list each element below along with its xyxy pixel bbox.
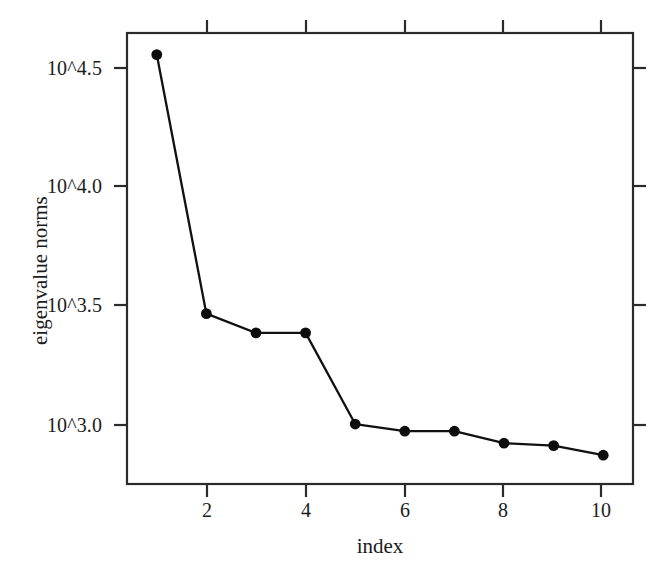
x-tick-label-8: 8 — [498, 500, 508, 520]
y-axis-ticks-left — [114, 68, 127, 425]
x-tick-label-2: 2 — [202, 500, 212, 520]
x-tick-label-6: 6 — [400, 500, 410, 520]
x-axis-title: index — [357, 534, 404, 559]
data-point — [201, 308, 212, 319]
x-tick-label-4: 4 — [301, 500, 311, 520]
eigenvalue-series-markers — [151, 49, 608, 460]
x-tick-label-10: 10 — [591, 500, 611, 520]
plot-canvas — [0, 0, 652, 569]
y-tick-label-3-5: 10^3.5 — [10, 295, 102, 315]
x-axis-ticks-top — [207, 20, 601, 33]
data-point — [350, 419, 361, 430]
y-tick-label-4-0: 10^4.0 — [10, 176, 102, 196]
data-point — [449, 426, 460, 437]
data-point — [399, 426, 410, 437]
data-point — [251, 327, 262, 338]
plot-frame — [127, 33, 633, 484]
data-point — [499, 438, 510, 449]
data-point — [598, 450, 609, 461]
y-tick-label-4-5: 10^4.5 — [10, 58, 102, 78]
x-axis-ticks-bottom — [207, 484, 601, 497]
data-point — [548, 440, 559, 451]
data-point — [151, 49, 162, 60]
y-axis-ticks-right — [633, 68, 646, 425]
scree-plot-figure: 10^4.5 10^4.0 10^3.5 10^3.0 2 4 6 8 10 e… — [0, 0, 652, 569]
y-axis-title: eigenvalue norms — [28, 196, 53, 345]
data-point — [300, 327, 311, 338]
y-tick-label-3-0: 10^3.0 — [10, 415, 102, 435]
eigenvalue-series-line — [157, 55, 603, 456]
